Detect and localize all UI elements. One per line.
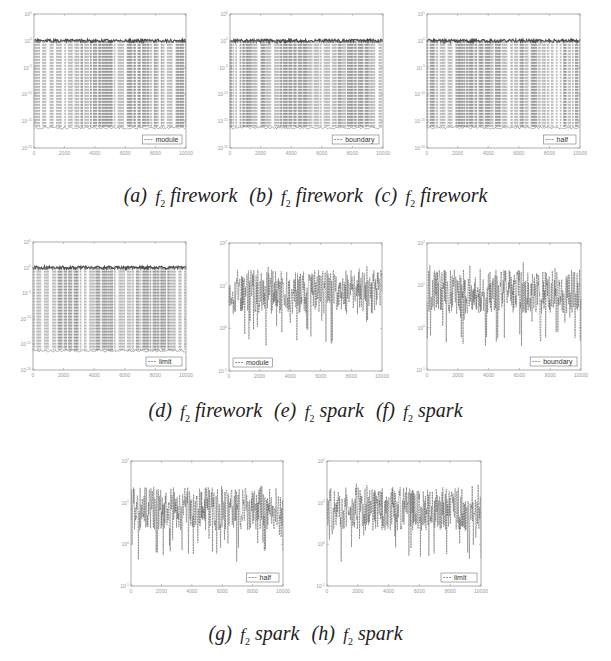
x-tick-label: 6000: [513, 150, 524, 156]
y-tick-label: 100: [417, 324, 425, 331]
plot-a: 020004000600080001000010510010-510-1010-…: [12, 8, 198, 160]
x-tick-label: 6000: [119, 372, 130, 378]
x-tick-label: 10000: [574, 372, 588, 378]
data-series: [327, 484, 481, 562]
y-tick-label: 105: [23, 239, 31, 246]
x-tick-label: 2000: [58, 372, 69, 378]
plot-e: 020004000600080001000010210110010-1modul…: [207, 237, 394, 383]
chart-panel-g: 020004000600080001000010210110010-1half: [109, 455, 295, 598]
x-tick-label: 6000: [120, 150, 131, 156]
y-tick-label: 10-15: [20, 341, 31, 348]
caption-h: (h) f2 spark: [312, 622, 403, 647]
x-tick-label: 8000: [346, 373, 357, 379]
caption-label: (h): [312, 622, 335, 644]
x-tick-label: 2000: [452, 372, 463, 378]
y-tick-label: 10-10: [20, 315, 31, 322]
data-series: [427, 262, 581, 346]
legend-label: limit: [159, 358, 171, 365]
y-tick-label: 10-15: [21, 118, 32, 125]
y-tick-label: 100: [220, 37, 228, 44]
x-tick-label: 8000: [445, 588, 456, 594]
x-tick-label: 6000: [217, 588, 228, 594]
x-tick-label: 8000: [150, 372, 161, 378]
x-tick-label: 4000: [286, 150, 297, 156]
y-tick-label: 10-10: [217, 91, 228, 98]
caption-label: (f): [376, 399, 395, 421]
legend-label: module: [155, 136, 178, 143]
caption-d: (d) f2 firework: [148, 399, 262, 424]
y-tick-label: 10-20: [217, 145, 228, 152]
x-tick-label: 8000: [545, 372, 556, 378]
caption-label: (d): [148, 399, 171, 421]
caption-word: spark: [353, 622, 402, 644]
legend: half: [247, 573, 279, 582]
y-tick-label: 100: [24, 37, 32, 44]
x-tick-label: 0: [228, 373, 231, 379]
caption-label: (a): [124, 184, 147, 206]
x-tick-label: 6000: [315, 373, 326, 379]
x-tick-label: 10000: [573, 150, 587, 156]
x-tick-label: 6000: [316, 150, 327, 156]
caption-word: firework: [165, 184, 237, 206]
x-tick-label: 10000: [474, 588, 488, 594]
x-tick-label: 4000: [483, 372, 494, 378]
caption-word: firework: [291, 184, 363, 206]
caption-f: (f) f2 spark: [376, 399, 463, 424]
chart-panel-c: 020004000600080001000010510010-510-1010-…: [405, 8, 592, 160]
legend: boundary: [332, 135, 379, 144]
x-tick-label: 2000: [254, 373, 265, 379]
data-series: [229, 266, 382, 346]
x-tick-label: 0: [32, 372, 35, 378]
y-tick-label: 101: [121, 499, 129, 506]
caption-function: f: [273, 187, 286, 206]
chart-panel-b: 020004000600080001000010510010-510-1010-…: [208, 8, 395, 160]
caption-c: (c) f2 firework: [375, 184, 487, 209]
caption-row-3: (g) f2 spark(h) f2 spark: [0, 622, 611, 647]
legend-label: module: [246, 359, 269, 366]
x-tick-label: 6000: [414, 588, 425, 594]
data-series: [34, 39, 186, 129]
y-tick-label: 101: [219, 282, 227, 289]
x-tick-label: 2000: [352, 588, 363, 594]
legend: module: [233, 358, 273, 367]
legend-label: limit: [454, 574, 466, 581]
y-tick-label: 105: [417, 11, 425, 18]
x-tick-label: 4000: [383, 588, 394, 594]
x-tick-label: 0: [229, 150, 232, 156]
y-tick-label: 10-1: [316, 583, 325, 590]
caption-b: (b) f2 firework: [249, 184, 363, 209]
y-tick-label: 100: [121, 541, 129, 548]
x-tick-label: 4000: [285, 373, 296, 379]
caption-function: f: [397, 187, 410, 206]
caption-label: (b): [249, 184, 272, 206]
x-tick-label: 10000: [376, 150, 390, 156]
y-tick-label: 10-10: [414, 91, 425, 98]
y-tick-label: 100: [417, 37, 425, 44]
y-tick-label: 10-1: [218, 368, 227, 375]
x-tick-label: 8000: [544, 150, 555, 156]
y-tick-label: 10-20: [414, 145, 425, 152]
caption-label: (c): [375, 184, 397, 206]
caption-function: f: [172, 402, 185, 421]
x-tick-label: 4000: [186, 588, 197, 594]
y-tick-label: 10-15: [217, 118, 228, 125]
legend: boundary: [530, 357, 577, 366]
legend-label: half: [557, 136, 568, 143]
chart-panel-f: 020004000600080001000010210110010-1bound…: [405, 237, 593, 382]
chart-panel-e: 020004000600080001000010210110010-1modul…: [207, 237, 394, 383]
caption-word: spark: [250, 622, 299, 644]
y-tick-label: 100: [219, 325, 227, 332]
y-tick-label: 10-15: [414, 118, 425, 125]
caption-function: f: [395, 402, 408, 421]
data-series: [230, 39, 383, 129]
x-tick-label: 0: [326, 588, 329, 594]
data-series: [427, 39, 580, 129]
caption-word: firework: [190, 399, 262, 421]
plot-c: 020004000600080001000010510010-510-1010-…: [405, 8, 592, 160]
y-tick-label: 100: [23, 264, 31, 271]
y-tick-label: 10-1: [120, 583, 129, 590]
caption-function: f: [335, 625, 348, 644]
y-tick-label: 101: [417, 282, 425, 289]
x-tick-label: 0: [130, 588, 133, 594]
x-tick-label: 10000: [179, 150, 193, 156]
